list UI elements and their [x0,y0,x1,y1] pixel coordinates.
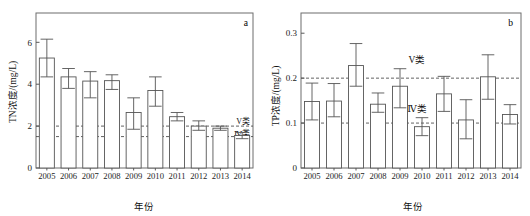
chart-a-svg: V类Ⅳ类 20052006200720082009201020112012201… [0,0,265,216]
x-tick-label: 2009 [391,171,408,181]
x-tick-label: 2014 [234,171,252,181]
figure-container: V类Ⅳ类 20052006200720082009201020112012201… [0,0,530,216]
x-tick-label: 2013 [479,171,496,181]
x-tick-label: 2012 [457,171,474,181]
x-tick-label: 2008 [103,171,120,181]
x-tick-label: 2009 [125,171,142,181]
panel-letter-b: b [508,18,513,28]
x-tick-label: 2005 [38,171,55,181]
x-tick-label: 2011 [169,171,186,181]
y-tick-label: 6 [28,38,33,48]
y-tick-label: 4 [28,79,33,89]
y-tick-label: 0 [28,163,33,173]
x-tick-label: 2007 [347,171,365,181]
y-tick-label: 2 [28,121,33,131]
x-tick-label: 2014 [501,171,519,181]
y-tick-label: 0 [293,163,298,173]
y-axis-title-b: TP浓度/(mg/L) [270,66,282,127]
bar [213,128,228,168]
x-tick-label: 2010 [147,171,164,181]
bar [371,104,386,168]
bar [170,117,185,168]
reference-line-label: V类 [409,54,426,65]
y-tick-label: 0.3 [286,28,298,38]
bar [191,126,206,168]
bar [235,136,250,168]
x-tick-label: 2006 [60,171,78,181]
bar [104,81,119,168]
panel-letter-a: a [244,18,249,28]
x-tick-label: 2005 [303,171,320,181]
chart-panel-a: V类Ⅳ类 20052006200720082009201020112012201… [0,0,265,216]
x-tick-label: 2013 [212,171,229,181]
x-tick-label: 2008 [369,171,386,181]
x-tick-label: 2006 [325,171,343,181]
x-axis-title-b: 年份 [403,201,423,212]
y-tick-label: 0.2 [286,73,297,83]
chart-b-svg: V类Ⅳ类 20052006200720082009201020112012201… [265,0,530,216]
reference-line-label: V类 [236,116,250,126]
x-tick-label: 2011 [436,171,453,181]
y-axis-title-a: TN浓度/(mg/L) [7,61,19,123]
y-tick-label: 0.1 [286,118,297,128]
x-tick-label: 2007 [82,171,100,181]
bar [61,77,76,168]
x-axis-title-a: 年份 [134,201,154,212]
x-tick-label: 2012 [190,171,207,181]
reference-line-label: Ⅳ类 [407,103,427,114]
x-tick-label: 2010 [413,171,430,181]
chart-panel-b: V类Ⅳ类 20052006200720082009201020112012201… [265,0,530,216]
